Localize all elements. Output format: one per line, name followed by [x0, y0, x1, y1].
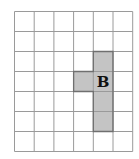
grid-canvas: B [14, 11, 134, 153]
shape-label: B [97, 73, 110, 91]
grid-diagram: B [14, 11, 134, 157]
